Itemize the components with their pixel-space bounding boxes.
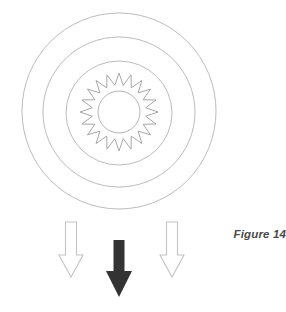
- ring-group: [22, 13, 216, 209]
- figure-canvas: Figure 14: [0, 0, 286, 312]
- concentric-rings-diagram: [0, 0, 286, 312]
- serrated-star-ring: [80, 73, 158, 151]
- star-polygon: [80, 73, 158, 151]
- outer-ring: [22, 13, 216, 209]
- left-arrow-icon: [59, 222, 83, 277]
- figure-caption: Figure 14: [208, 228, 286, 240]
- right-arrow-icon: [160, 222, 184, 277]
- center-arrow-icon: [106, 240, 132, 297]
- hub-circle: [98, 91, 140, 133]
